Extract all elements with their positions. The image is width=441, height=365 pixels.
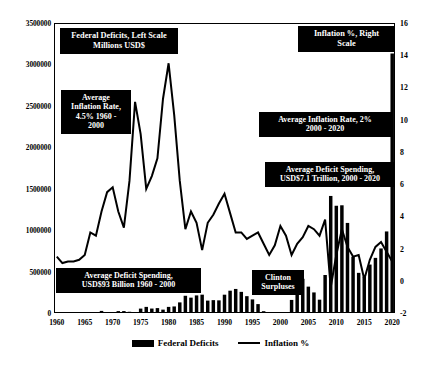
annotation-avg-deficit-1960-2000: Average Deficit Spending, USD$93 Billion… (56, 268, 201, 293)
x-axis-tick-label: 1965 (77, 318, 92, 327)
legend-label-inflation-pct: Inflation % (264, 338, 309, 348)
annotation-deficits-left-scale: Federal Deficits, Left Scale Millions US… (60, 28, 178, 54)
chart-container: 0500000100000015000002000000250000030000… (0, 0, 441, 365)
bar-swatch-icon (132, 340, 154, 347)
annotation-clinton-surpluses: Clinton Surpluses (252, 270, 304, 295)
x-axis-tick-label: 2000 (273, 318, 288, 327)
x-axis-tick-label: 1995 (245, 318, 260, 327)
x-axis-tick-label: 1960 (49, 318, 64, 327)
annotation-avg-inflation-1960-2000: Average Inflation Rate, 4.5% 1960 - 2000 (61, 90, 131, 134)
legend-item-inflation-pct: Inflation % (238, 338, 309, 348)
x-axis-tick-label: 1975 (133, 318, 148, 327)
x-axis-tick-label: 2010 (329, 318, 344, 327)
x-axis-tick-label: 2015 (357, 318, 372, 327)
x-axis-tick-label: 1980 (161, 318, 176, 327)
x-axis-tick-label: 1990 (217, 318, 232, 327)
annotation-avg-deficit-2000-2020: Average Deficit Spending, USD$7.1 Trilli… (265, 162, 395, 187)
annotation-inflation-right-scale: Inflation %, Right Scale (298, 26, 395, 52)
annotation-avg-inflation-2000-2020: Average Inflation Rate, 2% 2000 - 2020 (259, 112, 391, 137)
x-axis-tick-label: 2005 (301, 318, 316, 327)
chart-legend: Federal Deficits Inflation % (0, 338, 441, 348)
x-axis-tick-label: 1970 (105, 318, 120, 327)
legend-item-federal-deficits: Federal Deficits (132, 338, 219, 348)
x-axis-tick-label: 1985 (189, 318, 204, 327)
legend-label-federal-deficits: Federal Deficits (158, 338, 219, 348)
x-axis-tick-label: 2020 (385, 318, 400, 327)
line-swatch-icon (238, 342, 260, 345)
